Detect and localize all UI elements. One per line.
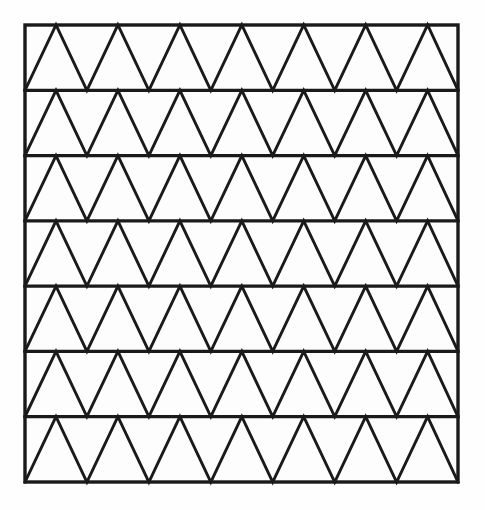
figure-canvas xyxy=(0,0,485,510)
tessellation-diagram xyxy=(0,0,485,510)
